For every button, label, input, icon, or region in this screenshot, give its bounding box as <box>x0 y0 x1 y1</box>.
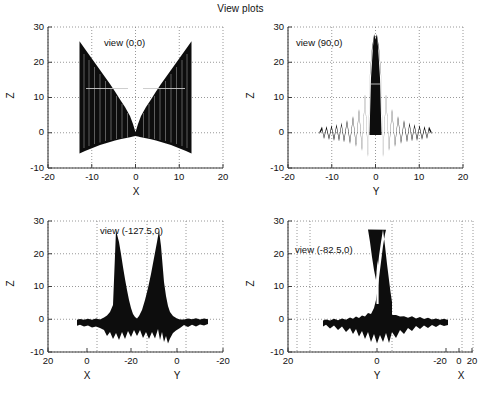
ztick-label: 0 <box>16 126 44 137</box>
y-axis-label: Y <box>159 370 195 381</box>
ytick-label: 0 <box>359 355 395 366</box>
xtick-label: 0 <box>358 171 394 182</box>
ztick-label: 0 <box>16 313 44 324</box>
xtick-label: 20 <box>445 171 481 182</box>
z-axis-label: Z <box>245 272 256 296</box>
xtick-label: -20 <box>270 171 306 182</box>
y-axis-label: Y <box>357 186 395 197</box>
ztick-label: 0 <box>256 313 284 324</box>
ztick-label: 20 <box>256 248 284 259</box>
x-axis-label: X <box>117 186 155 197</box>
subplot-view-m82-0: 30 20 10 0 -10 20 0 -20 0 20 Z Y X view … <box>240 212 481 408</box>
subplot-view-0-0: 30 20 10 0 -10 -20 -10 0 10 20 Z X view … <box>0 18 240 204</box>
ztick-label: 30 <box>256 215 284 226</box>
xtick-label: 10 <box>401 171 437 182</box>
xtick-label: -10 <box>74 171 110 182</box>
xtick-label: 0 <box>69 355 105 366</box>
z-axis-label: Z <box>5 272 16 296</box>
grid-lines-tl <box>48 27 223 168</box>
y-axis-label: Y <box>359 370 395 381</box>
ztick-label: 10 <box>16 91 44 102</box>
view-annotation: view (0,0) <box>104 37 145 48</box>
xtick-label: -20 <box>30 171 66 182</box>
ztick-label: 20 <box>16 56 44 67</box>
xtick-label: 20 <box>30 355 66 366</box>
figure-title: View plots <box>0 3 481 14</box>
ztick-label: 20 <box>256 56 284 67</box>
view-annotation: view (-127.5,0) <box>100 225 163 236</box>
z-axis-label: Z <box>245 84 256 108</box>
xtick-label: 20 <box>462 355 481 366</box>
ytick-label: 20 <box>270 355 306 366</box>
subplot-bottom-left-canvas <box>0 212 240 408</box>
subplot-view-90-0: 30 20 10 0 -10 -20 -10 0 10 20 Z Y view … <box>240 18 481 204</box>
xtick-label: 0 <box>118 171 154 182</box>
matlab-figure: View plots <box>0 0 481 408</box>
xtick-label: -20 <box>113 355 149 366</box>
ztick-label: 10 <box>16 280 44 291</box>
z-axis-label: Z <box>5 84 16 108</box>
ztick-label: 10 <box>256 91 284 102</box>
ytick-label: -20 <box>205 355 241 366</box>
x-axis-label: X <box>69 370 105 381</box>
ztick-label: 30 <box>256 21 284 32</box>
x-axis-label: X <box>443 370 479 381</box>
ztick-label: 30 <box>16 21 44 32</box>
view-annotation: view (90,0) <box>296 37 342 48</box>
ztick-label: 10 <box>256 280 284 291</box>
view-annotation: view (-82.5,0) <box>295 244 353 255</box>
ytick-label: 0 <box>159 355 195 366</box>
ztick-label: 0 <box>256 126 284 137</box>
ztick-label: 20 <box>16 248 44 259</box>
ztick-label: 30 <box>16 215 44 226</box>
subplot-view-m127-0: 30 20 10 0 -10 20 0 -20 0 -20 Z X Y view… <box>0 212 240 408</box>
xtick-label: 10 <box>161 171 197 182</box>
xtick-label: -10 <box>314 171 350 182</box>
xtick-label: 20 <box>205 171 241 182</box>
